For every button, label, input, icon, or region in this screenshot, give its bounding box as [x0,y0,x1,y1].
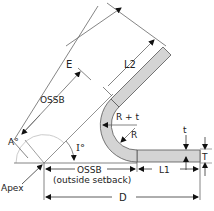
flange-l1 [137,150,200,162]
label-ossb-base: OSSB [77,165,102,175]
label-apex: Apex [1,183,24,193]
ossb-arm-ext [78,68,91,80]
a-angle-bisector [25,140,44,163]
e-extension-top [107,3,166,46]
apex-leader [22,165,42,184]
label-l1: L1 [159,165,170,175]
label-l2: L2 [124,59,136,70]
label-d: D [119,192,127,203]
label-i-angle: I° [76,142,85,153]
label-t: t [183,125,187,135]
bend-diagram: E L2 OSSB A° I° R + t R t T Apex OSSB (o… [0,0,214,211]
ossb-arm-dim-start [22,115,40,134]
arm-l2 [111,47,171,107]
l2-ext [103,87,112,96]
label-cap-t: T [201,152,208,162]
label-ossb-note: (outside setback) [53,175,131,185]
i-angle-arc [66,141,74,160]
e-extension [22,5,170,48]
label-r-plus-t: R + t [116,112,140,122]
label-r: R [131,130,137,140]
label-a-angle: A° [8,137,19,147]
label-ossb-arm: OSSB [40,95,65,105]
diagram-canvas: E L2 OSSB A° I° R + t R t T Apex OSSB (o… [0,0,214,211]
e-dim-line [14,6,98,140]
label-e: E [66,59,72,70]
